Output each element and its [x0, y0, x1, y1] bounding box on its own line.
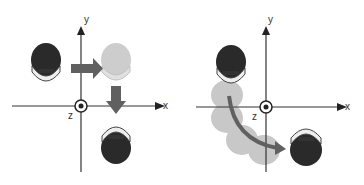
z-axis-label: z: [252, 111, 257, 122]
figure-end-icon: [290, 129, 322, 166]
y-axis-arrowhead-icon: [77, 26, 85, 35]
left-diagram-panel: y x z: [0, 0, 182, 185]
x-axis-label: x: [163, 100, 168, 111]
left-diagram-canvas: [0, 0, 182, 185]
move-down-arrow-icon: [106, 86, 126, 114]
figure-end-icon: [101, 127, 131, 164]
figure-ghost-icon: [101, 43, 131, 80]
rotation-ghost-trail: [211, 80, 280, 165]
figure-start-icon: [31, 43, 61, 81]
move-right-arrow-icon: [71, 58, 103, 79]
right-diagram-panel: y x z: [182, 0, 364, 185]
y-axis-label: y: [84, 14, 89, 25]
right-diagram-canvas: [182, 0, 364, 185]
y-axis-label: y: [268, 14, 273, 25]
figure-start-icon: [216, 45, 246, 83]
y-axis-arrowhead-icon: [262, 26, 270, 35]
z-axis-label: z: [68, 110, 73, 121]
x-axis-label: x: [345, 101, 350, 112]
